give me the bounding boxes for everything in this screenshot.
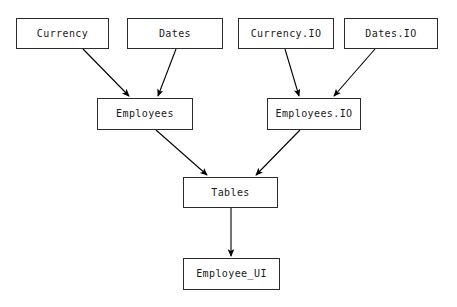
node-currency[interactable]: Currency bbox=[16, 18, 109, 49]
node-label-employees_io: Employees.IO bbox=[275, 109, 352, 119]
node-label-employees: Employees bbox=[116, 109, 174, 119]
node-employee_ui[interactable]: Employee_UI bbox=[183, 258, 280, 290]
edge-currencyio-to-employeesio bbox=[285, 49, 299, 96]
node-label-employee_ui: Employee_UI bbox=[196, 269, 267, 279]
node-employees_io[interactable]: Employees.IO bbox=[267, 98, 361, 130]
node-label-tables: Tables bbox=[211, 188, 250, 198]
edge-employeesio-to-tables bbox=[256, 130, 300, 175]
node-dates[interactable]: Dates bbox=[127, 18, 223, 49]
node-label-currency: Currency bbox=[37, 29, 88, 39]
edge-currency-to-employees bbox=[83, 49, 129, 96]
edge-employees-to-tables bbox=[156, 130, 207, 175]
node-label-dates_io: Dates.IO bbox=[365, 29, 416, 39]
node-label-dates: Dates bbox=[159, 29, 191, 39]
node-employees[interactable]: Employees bbox=[97, 98, 193, 130]
node-dates_io[interactable]: Dates.IO bbox=[344, 18, 438, 49]
edge-group bbox=[83, 49, 375, 256]
edge-datesio-to-employeesio bbox=[334, 49, 375, 96]
edge-dates-to-employees bbox=[158, 49, 176, 96]
node-currency_io[interactable]: Currency.IO bbox=[238, 18, 334, 49]
node-label-currency_io: Currency.IO bbox=[251, 29, 322, 39]
diagram-canvas: CurrencyDatesCurrency.IODates.IOEmployee… bbox=[0, 0, 457, 307]
node-tables[interactable]: Tables bbox=[183, 177, 278, 208]
